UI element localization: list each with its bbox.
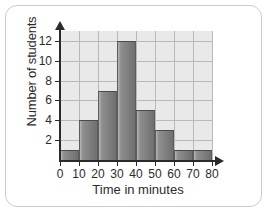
bar — [155, 130, 174, 160]
x-axis-tick — [79, 161, 80, 166]
x-axis-tick — [212, 161, 213, 166]
bar — [60, 150, 79, 160]
y-axis-tick-label: 4 — [28, 113, 52, 127]
y-axis-tick — [55, 100, 60, 101]
x-axis-tick-label: 80 — [201, 167, 223, 181]
gridline-vertical — [212, 31, 213, 160]
bar — [98, 91, 117, 160]
x-axis-tick — [174, 161, 175, 166]
x-axis-tick — [155, 161, 156, 166]
x-axis-tick — [117, 161, 118, 166]
bar — [136, 110, 155, 160]
x-axis-title: Time in minutes — [58, 182, 218, 197]
x-axis-tick — [98, 161, 99, 166]
x-axis-arrow-icon — [215, 156, 224, 166]
y-axis-tick — [55, 81, 60, 82]
y-axis-tick-label: 10 — [28, 54, 52, 68]
bar — [79, 120, 98, 160]
bar — [117, 41, 136, 160]
y-axis-tick-label: 12 — [28, 34, 52, 48]
plot-area — [60, 31, 212, 160]
y-axis-tick-label: 8 — [28, 74, 52, 88]
y-axis-tick — [55, 41, 60, 42]
y-axis-line — [59, 28, 61, 162]
x-axis-tick — [60, 161, 61, 166]
y-axis-tick — [55, 120, 60, 121]
bar-series — [60, 31, 212, 160]
y-axis-tick-label: 2 — [28, 133, 52, 147]
bar — [193, 150, 212, 160]
x-axis-tick — [193, 161, 194, 166]
chart-card: Number of students Time in minutes 24681… — [5, 5, 262, 207]
y-axis-arrow-icon — [55, 21, 65, 30]
y-axis-tick-label: 6 — [28, 93, 52, 107]
x-axis-tick — [136, 161, 137, 166]
y-axis-tick — [55, 61, 60, 62]
y-axis-tick — [55, 140, 60, 141]
bar — [174, 150, 193, 160]
histogram-chart: Number of students Time in minutes 24681… — [6, 6, 263, 208]
